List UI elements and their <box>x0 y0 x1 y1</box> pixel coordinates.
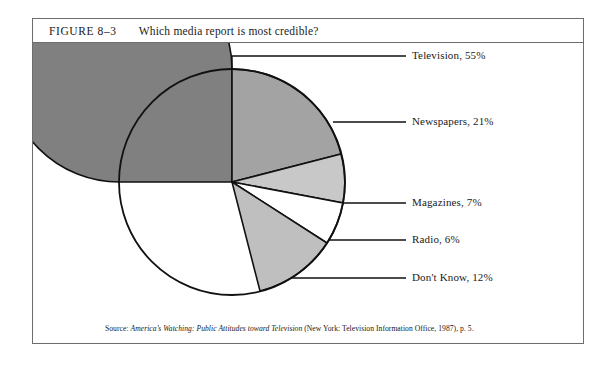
pie-label-dont-know: Don't Know, 12% <box>412 271 493 283</box>
pie-label-magazines: Magazines, 7% <box>412 196 482 208</box>
source-note: Source: America’s Watching: Public Attit… <box>105 324 474 333</box>
pie-chart-area: Television, 55% Newspapers, 21% Magazine… <box>33 43 583 345</box>
pie-label-television: Television, 55% <box>412 49 486 61</box>
pie-chart-svg <box>33 43 585 345</box>
page-title: Which media report is most credible? <box>139 25 319 37</box>
pie-slice-television <box>33 43 232 182</box>
leader-line-television <box>232 56 406 69</box>
figure-title-bar: FIGURE 8–3 Which media report is most cr… <box>33 19 583 43</box>
pie-label-radio: Radio, 6% <box>412 233 460 245</box>
source-prefix: Source: <box>105 324 131 333</box>
figure-number: FIGURE 8–3 <box>49 25 117 37</box>
source-suffix: (New York: Television Information Office… <box>302 324 473 333</box>
source-title: America’s Watching: Public Attitudes tow… <box>131 324 303 333</box>
figure-frame: FIGURE 8–3 Which media report is most cr… <box>32 18 584 344</box>
pie-label-newspapers: Newspapers, 21% <box>412 115 494 127</box>
